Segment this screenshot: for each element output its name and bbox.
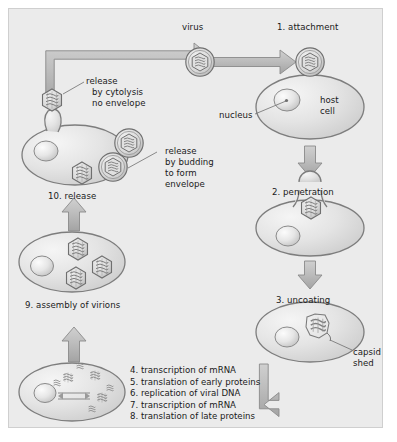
label-host-cell-line1: host [320, 95, 339, 106]
step-item-7: 7. transcription of mRNA [130, 400, 260, 412]
label-capsid-line2: shed [353, 358, 374, 369]
label-step-9-assembly: 9. assembly of virions [25, 300, 120, 311]
label-release-budding-line1: release [165, 146, 197, 157]
synthesis-steps-list: 4. transcription of mRNA 5. translation … [130, 365, 260, 423]
label-release-cytolysis-line1: release [86, 76, 118, 87]
step-item-8: 8. translation of late proteins [130, 411, 260, 423]
label-capsid-line1: capsid [353, 347, 381, 358]
label-step-1-attachment: 1. attachment [277, 22, 339, 33]
label-nucleus: nucleus [219, 110, 253, 121]
label-release-cytolysis-line3: no envelope [92, 98, 145, 109]
step-item-6: 6. replication of viral DNA [130, 388, 260, 400]
label-step-2-penetration: 2. penetration [272, 187, 334, 198]
step-item-4: 4. transcription of mRNA [130, 365, 260, 377]
label-release-budding-line3: to form [165, 168, 197, 179]
figure-root: virus 1. attachment host cell nucleus 2.… [0, 0, 397, 442]
label-release-cytolysis-line2: by cytolysis [92, 87, 143, 98]
label-virus: virus [182, 22, 203, 33]
label-release-budding-line4: envelope [165, 179, 205, 190]
label-step-3-uncoating: 3. uncoating [276, 295, 330, 306]
label-host-cell-line2: cell [320, 106, 335, 117]
label-release-budding-line2: by budding [165, 157, 214, 168]
step-item-5: 5. translation of early proteins [130, 377, 260, 389]
label-step-10-release: 10. release [48, 191, 96, 202]
